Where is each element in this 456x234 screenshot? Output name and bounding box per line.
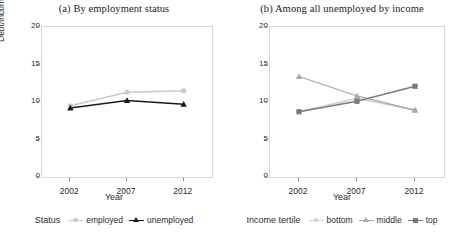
circle-marker (124, 90, 129, 95)
plot-area-a (41, 26, 213, 178)
triangle-marker (359, 216, 374, 224)
y-tick-mark (264, 176, 267, 177)
y-tick-mark (36, 64, 39, 65)
y-tick-label: 5 (6, 134, 40, 143)
legend-b: Income tertilebottommiddletop (228, 210, 456, 230)
x-tick-mark (356, 178, 357, 181)
y-tick-label: 10 (234, 96, 268, 105)
series-lines-b (270, 27, 444, 177)
panel-a: (a) By employment status Debt/income rat… (0, 0, 228, 200)
legend-label: unemployed (147, 215, 193, 225)
square-marker (296, 109, 301, 114)
legend-item-employed[interactable]: employed (68, 215, 123, 225)
y-axis-ticks-b: 05101520 (228, 26, 268, 178)
x-axis-label-b: Year (228, 192, 456, 202)
triangle-marker (129, 216, 144, 224)
y-tick-label: 0 (6, 171, 40, 180)
legend-label: top (426, 215, 438, 225)
legend-item-unemployed[interactable]: unemployed (129, 215, 193, 225)
y-tick-mark (36, 101, 39, 102)
y-tick-label: 10 (6, 96, 40, 105)
y-tick-label: 20 (6, 21, 40, 30)
panel-a-title: (a) By employment status (0, 3, 228, 14)
legend-item-middle[interactable]: middle (359, 215, 402, 225)
square-marker (408, 216, 423, 224)
y-tick-mark (264, 26, 267, 27)
x-axis-label-a: Year (0, 192, 228, 202)
circle-marker (309, 216, 324, 224)
y-tick-label: 15 (6, 59, 40, 68)
legend-label: employed (86, 215, 123, 225)
legend-item-top[interactable]: top (408, 215, 438, 225)
panel-b: (b) Among all unemployed by income 05101… (228, 0, 456, 200)
triangle-marker (296, 73, 302, 79)
panel-b-title: (b) Among all unemployed by income (228, 3, 456, 14)
y-tick-label: 5 (234, 134, 268, 143)
x-tick-mark (126, 178, 127, 181)
series-lines-a (42, 27, 212, 177)
square-marker (354, 99, 359, 104)
y-tick-label: 0 (234, 171, 268, 180)
y-tick-label: 20 (234, 21, 268, 30)
y-tick-mark (264, 139, 267, 140)
y-tick-mark (36, 139, 39, 140)
y-tick-mark (36, 176, 39, 177)
circle-marker (68, 216, 83, 224)
y-tick-label: 15 (234, 59, 268, 68)
figure-container: (a) By employment status Debt/income rat… (0, 0, 456, 234)
legend-title: Status (35, 215, 61, 225)
x-tick-mark (69, 178, 70, 181)
plot-area-b (269, 26, 445, 178)
square-marker (412, 84, 417, 89)
x-tick-mark (414, 178, 415, 181)
legend-label: bottom (327, 215, 353, 225)
legend-title: Income tertile (247, 215, 301, 225)
y-tick-mark (264, 64, 267, 65)
y-tick-mark (36, 26, 39, 27)
y-axis-ticks-a: 05101520 (0, 26, 40, 178)
y-tick-mark (264, 101, 267, 102)
x-tick-mark (298, 178, 299, 181)
x-tick-mark (183, 178, 184, 181)
legend-label: middle (377, 215, 402, 225)
legend-a: Statusemployedunemployed (0, 210, 228, 230)
circle-marker (181, 88, 186, 93)
legend-item-bottom[interactable]: bottom (309, 215, 353, 225)
